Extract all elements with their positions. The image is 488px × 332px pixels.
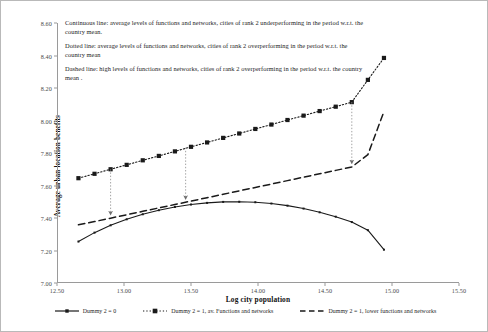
y-tick-label: 7.80 bbox=[41, 150, 52, 157]
x-tick-label: 14.00 bbox=[251, 287, 265, 294]
y-tick-label: 8.60 bbox=[41, 20, 52, 27]
chart-legend: Dummy 2 = 0Dummy 2 = 1, av. Functions an… bbox=[1, 307, 488, 315]
y-tick-label: 7.60 bbox=[41, 182, 52, 189]
legend-label-2: Dummy 2 = 1, lower functions and network… bbox=[328, 308, 436, 314]
legend-item-2[interactable]: Dummy 2 = 1, lower functions and network… bbox=[299, 307, 436, 315]
x-tick-mark bbox=[124, 283, 125, 286]
series-2 bbox=[78, 112, 384, 225]
y-tick-label: 7.20 bbox=[41, 247, 52, 254]
legend-label-0: Dummy 2 = 0 bbox=[83, 308, 117, 314]
y-tick-label: 7.40 bbox=[41, 215, 52, 222]
y-tick-label: 8.20 bbox=[41, 85, 52, 92]
x-axis-label: Log city population bbox=[57, 295, 459, 304]
legend-item-1[interactable]: Dummy 2 = 1, av. Functions and networks bbox=[142, 307, 273, 315]
legend-key-2 bbox=[299, 307, 325, 315]
x-tick-mark bbox=[191, 283, 192, 286]
legend-label-1: Dummy 2 = 1, av. Functions and networks bbox=[171, 308, 273, 314]
x-tick-mark bbox=[325, 283, 326, 286]
x-tick-mark bbox=[258, 283, 259, 286]
x-tick-mark bbox=[57, 283, 58, 286]
y-tick-label: 8.40 bbox=[41, 52, 52, 59]
x-tick-label: 14.50 bbox=[318, 287, 332, 294]
x-tick-label: 15.50 bbox=[452, 287, 466, 294]
legend-key-1 bbox=[142, 307, 168, 315]
series-canvas bbox=[57, 23, 459, 283]
series-1 bbox=[76, 56, 386, 180]
x-tick-label: 13.50 bbox=[184, 287, 198, 294]
x-tick-label: 12.50 bbox=[50, 287, 64, 294]
plot-area: 7.007.207.407.607.808.008.208.408.60 12.… bbox=[57, 23, 459, 283]
x-tick-label: 15.00 bbox=[385, 287, 399, 294]
y-tick-label: 8.00 bbox=[41, 117, 52, 124]
x-tick-label: 13.00 bbox=[117, 287, 131, 294]
legend-item-0[interactable]: Dummy 2 = 0 bbox=[54, 307, 117, 315]
x-tick-mark bbox=[392, 283, 393, 286]
x-tick-mark bbox=[459, 283, 460, 286]
chart-figure: Continuous line: average levels of funct… bbox=[0, 0, 488, 332]
y-tick-label: 7.00 bbox=[41, 280, 52, 287]
legend-key-0 bbox=[54, 307, 80, 315]
series-0 bbox=[77, 201, 385, 251]
